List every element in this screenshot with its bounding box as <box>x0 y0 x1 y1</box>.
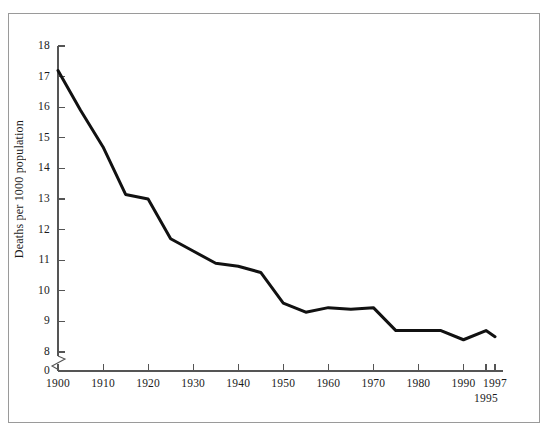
line-chart-plot <box>0 0 550 442</box>
chart-axes <box>52 46 503 371</box>
x-tick-label: 1910 <box>83 377 123 389</box>
y-tick-label: 15 <box>28 131 50 143</box>
x-tick-label: 1950 <box>263 377 303 389</box>
x-tick-label: 1980 <box>398 377 438 389</box>
y-tick-label: 16 <box>28 100 50 112</box>
x-tick-label: 1970 <box>353 377 393 389</box>
y-tick-label: 18 <box>28 39 50 51</box>
y-tick-label: 13 <box>28 192 50 204</box>
y-tick-label: 11 <box>28 253 50 265</box>
y-tick-label: 8 <box>28 345 50 357</box>
y-tick-label: 14 <box>28 161 50 173</box>
data-line-series-0 <box>58 70 495 339</box>
x-tick-label: 1940 <box>218 377 258 389</box>
y-tick-label: 10 <box>28 284 50 296</box>
x-tick-label: 1900 <box>38 377 78 389</box>
y-tick-label: 12 <box>28 223 50 235</box>
y-tick-label: 17 <box>28 70 50 82</box>
x-tick-label: 1997 <box>475 377 515 389</box>
x-tick-label-secondary: 1995 <box>466 392 506 404</box>
y-tick-label: 9 <box>28 314 50 326</box>
figure-container: Deaths per 1000 population 1817161514131… <box>0 0 550 442</box>
y-tick-label: 0 <box>28 364 50 376</box>
x-tick-label: 1960 <box>308 377 348 389</box>
x-tick-label: 1930 <box>173 377 213 389</box>
chart-series <box>58 70 495 339</box>
x-tick-label: 1920 <box>128 377 168 389</box>
